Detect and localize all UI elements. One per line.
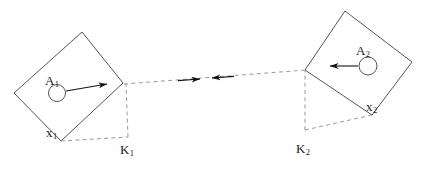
right-square-mass-circle [359, 57, 377, 75]
left-square-outline [14, 32, 123, 141]
right-square-dashed-edge-1 [305, 115, 372, 130]
arrowhead-right [178, 79, 200, 81]
left-square-dashed-edge-2 [126, 84, 128, 137]
figure-vector-layer [0, 0, 426, 179]
label-x1: x1 [46, 124, 57, 141]
figure-canvas: A1 x1 K1 A2 x2 K2 [0, 0, 426, 179]
label-K2: K2 [296, 140, 310, 157]
left-square-dashed-edge-1 [61, 137, 128, 141]
label-x2: x2 [366, 98, 377, 115]
body-2-group [305, 11, 412, 130]
label-K1: K1 [120, 141, 134, 158]
left-square-force-arrow [66, 84, 107, 91]
interaction-dashed-line [124, 70, 306, 84]
label-A2: A2 [356, 42, 370, 59]
connector-group [124, 70, 306, 84]
body-1-group [14, 32, 128, 141]
label-A1: A1 [45, 72, 59, 89]
right-square-outline [305, 11, 412, 115]
